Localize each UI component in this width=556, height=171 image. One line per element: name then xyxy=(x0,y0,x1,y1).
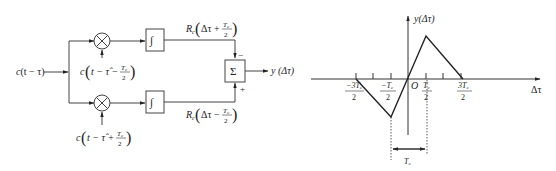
top-output-label: Rc ( Δτ + Tc 2 ) xyxy=(185,20,237,39)
svg-text:Tc: Tc xyxy=(223,21,230,29)
svg-text:(: ( xyxy=(85,63,90,81)
bottom-sign: + xyxy=(240,84,245,94)
svg-text:2: 2 xyxy=(122,74,126,82)
svg-text:Rc: Rc xyxy=(185,109,195,121)
bottom-mixer xyxy=(94,95,110,111)
svg-text:2: 2 xyxy=(352,93,356,102)
top-integrator-box xyxy=(146,29,164,51)
svg-text:t − τ̂ −: t − τ̂ − xyxy=(91,66,118,77)
bottom-ref-label: c ( t − τ̂ + Tc 2 ) xyxy=(76,129,131,148)
svg-text:−3Tc: −3Tc xyxy=(346,81,363,90)
svg-text:2: 2 xyxy=(424,93,428,102)
svg-text:2: 2 xyxy=(224,117,228,125)
svg-text:Tc: Tc xyxy=(117,130,124,138)
y-axis-label: y(Δτ) xyxy=(413,13,435,25)
svg-text:2: 2 xyxy=(461,93,465,102)
svg-text:): ) xyxy=(130,63,135,81)
input-label: c(t − τ) xyxy=(16,66,45,78)
svg-text:−Tc: −Tc xyxy=(381,81,394,90)
span-label: Tc xyxy=(404,157,411,166)
tick-label-Tc-2: Tc 2 xyxy=(422,81,432,102)
origin-label: O xyxy=(411,80,418,91)
tick-label-minus-3Tc-2: −3Tc 2 xyxy=(345,81,364,102)
svg-text:Δτ +: Δτ + xyxy=(201,23,220,34)
block-diagram-labels: c(t − τ) ∫ ∫ Σ − + c ( t − τ̂ − Tc 2 ) c… xyxy=(16,20,295,148)
top-integral-symbol: ∫ xyxy=(149,34,154,47)
bottom-to-sum-arrow xyxy=(164,83,235,102)
s-curve xyxy=(356,36,463,117)
top-mixer xyxy=(94,33,110,49)
svg-text:2: 2 xyxy=(118,140,122,148)
svg-text:2: 2 xyxy=(386,93,390,102)
sum-symbol: Σ xyxy=(230,65,236,77)
graph-labels: y(Δτ) Δτ O −3Tc 2 −Tc 2 Tc 2 3Tc 2 Tc xyxy=(345,13,541,166)
svg-text:Tc: Tc xyxy=(223,107,230,115)
tick-label-minus-Tc-2: −Tc 2 xyxy=(380,81,396,102)
x-axis-label: Δτ xyxy=(531,84,541,95)
svg-text:): ) xyxy=(232,106,237,124)
svg-text:): ) xyxy=(232,20,237,38)
bottom-integral-symbol: ∫ xyxy=(149,96,154,109)
svg-text:2: 2 xyxy=(224,31,228,39)
top-ref-label: c ( t − τ̂ − Tc 2 ) xyxy=(80,63,135,82)
svg-text:Tc: Tc xyxy=(121,64,128,72)
tick-label-3Tc-2: 3Tc 2 xyxy=(457,81,472,102)
svg-text:Δτ −: Δτ − xyxy=(201,109,220,120)
svg-text:Tc: Tc xyxy=(423,81,430,90)
svg-text:Rc: Rc xyxy=(185,23,195,35)
output-label: y (Δτ) xyxy=(270,65,295,77)
diagram-canvas: c(t − τ) ∫ ∫ Σ − + c ( t − τ̂ − Tc 2 ) c… xyxy=(0,0,556,171)
svg-text:3Tc: 3Tc xyxy=(457,81,469,90)
top-to-sum-arrow xyxy=(164,40,235,58)
svg-text:(: ( xyxy=(195,20,200,38)
svg-text:(: ( xyxy=(81,129,86,147)
svg-text:(: ( xyxy=(195,106,200,124)
bottom-integrator-box xyxy=(146,91,164,113)
svg-text:t − τ̂ +: t − τ̂ + xyxy=(87,132,114,143)
bottom-output-label: Rc ( Δτ − Tc 2 ) xyxy=(185,106,237,125)
svg-text:): ) xyxy=(126,129,131,147)
top-sign: − xyxy=(238,50,243,60)
